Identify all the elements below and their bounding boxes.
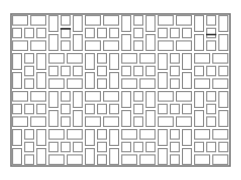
brick: [98, 155, 107, 164]
brick: [25, 79, 34, 88]
brick: [67, 155, 82, 164]
brick: [122, 54, 137, 63]
brick: [13, 130, 22, 146]
brick: [182, 54, 191, 70]
brick: [195, 111, 204, 127]
brick: [170, 142, 179, 151]
brick: [49, 142, 58, 151]
brick: [25, 54, 34, 63]
brick: [49, 79, 64, 88]
brick: [49, 54, 64, 63]
brick: [61, 92, 70, 101]
brick: [25, 66, 34, 75]
brick: [195, 66, 204, 75]
tile-blocks: [13, 16, 228, 165]
brick: [158, 92, 173, 101]
brick: [61, 142, 70, 151]
brick: [98, 142, 107, 151]
brick: [122, 155, 137, 164]
brick: [195, 92, 204, 108]
brick: [37, 54, 46, 70]
brick: [85, 41, 100, 50]
brick: [73, 66, 82, 75]
brick: [104, 16, 119, 25]
brick: [98, 79, 107, 88]
brick: [219, 111, 228, 127]
brick: [104, 117, 119, 126]
brick: [170, 155, 179, 164]
brick: [73, 92, 82, 108]
brick: [195, 35, 204, 51]
brick: [122, 111, 131, 127]
brick: [73, 16, 82, 32]
brick: [207, 41, 216, 50]
brick: [122, 35, 131, 51]
brick: [158, 41, 173, 50]
brick: [85, 16, 100, 25]
brick: [134, 16, 143, 25]
brick: [213, 79, 228, 88]
brick: [49, 92, 58, 108]
brick: [25, 155, 34, 164]
brick: [85, 92, 100, 101]
brick: [61, 117, 70, 126]
brick: [219, 92, 228, 108]
brick: [104, 92, 119, 101]
brick: [140, 130, 155, 139]
brick: [213, 155, 228, 164]
dark-mark: [206, 34, 216, 36]
brick: [122, 130, 137, 139]
brick: [73, 111, 82, 127]
brick: [61, 41, 70, 50]
brick: [122, 79, 137, 88]
brick: [146, 111, 155, 127]
brick: [110, 54, 119, 70]
brick: [61, 104, 70, 113]
brick: [170, 104, 179, 113]
brick: [25, 130, 34, 139]
brick: [195, 130, 210, 139]
brick: [140, 79, 155, 88]
brick: [37, 28, 46, 37]
brick: [146, 16, 155, 32]
brick: [146, 142, 155, 151]
brick: [13, 28, 22, 37]
brick: [146, 35, 155, 51]
brick: [110, 130, 119, 146]
brick: [122, 92, 131, 108]
brick: [85, 117, 100, 126]
brick: [85, 130, 94, 146]
brick: [85, 54, 94, 70]
brick: [134, 28, 143, 37]
brick: [25, 28, 34, 37]
brick: [207, 66, 216, 75]
brick: [104, 41, 119, 50]
brick: [158, 54, 167, 70]
brick: [85, 104, 94, 113]
brick: [182, 130, 191, 146]
brick: [158, 149, 167, 165]
brick: [98, 66, 107, 75]
brick: [37, 104, 46, 113]
brick: [182, 104, 191, 113]
brick: [49, 16, 58, 32]
brick: [158, 16, 173, 25]
brick: [13, 104, 22, 113]
brick: [13, 16, 28, 25]
brick: [13, 92, 28, 101]
brick: [140, 155, 155, 164]
brick: [110, 28, 119, 37]
brick: [37, 73, 46, 89]
brick: [195, 142, 204, 151]
brick: [122, 66, 131, 75]
brick: [195, 79, 210, 88]
brick: [73, 142, 82, 151]
brick: [31, 117, 46, 126]
brick: [140, 54, 155, 63]
brick: [170, 66, 179, 75]
brick: [195, 155, 210, 164]
brick: [13, 149, 22, 165]
brick: [49, 130, 64, 139]
brick: [176, 92, 191, 101]
brick: [61, 16, 70, 25]
